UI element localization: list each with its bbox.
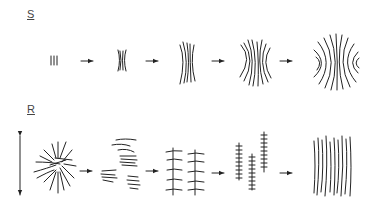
s-stage-4: [240, 40, 271, 86]
s-stage-2: [118, 50, 126, 71]
diagram-canvas: [0, 0, 371, 207]
r-stage-3: [166, 148, 204, 195]
s-stage-1: [51, 56, 57, 65]
s-stage-5: [314, 34, 359, 90]
s-stage-3: [180, 42, 195, 84]
r-stage-4: [236, 132, 267, 190]
r-stage-5: [314, 136, 351, 196]
r-stage-2: [101, 139, 140, 189]
r-stage-1: [34, 142, 76, 193]
